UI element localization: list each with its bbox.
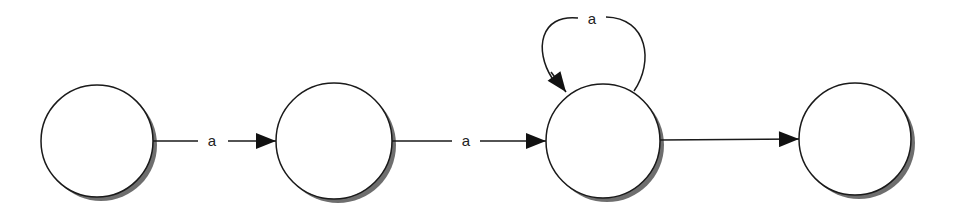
loop-arrow [551, 72, 566, 92]
state-circle [546, 84, 660, 198]
state-node-3[interactable] [546, 84, 664, 202]
edge-label: a [208, 132, 217, 149]
transition-s3-s4[interactable] [660, 139, 799, 140]
state-circle [799, 83, 911, 195]
state-node-1[interactable] [41, 85, 157, 201]
state-diagram: a a a [0, 0, 954, 218]
transition-s1-s2[interactable]: a [153, 132, 276, 149]
transition-s3-self-loop[interactable]: a [542, 10, 645, 92]
state-node-2[interactable] [276, 83, 396, 203]
edge-label: a [462, 132, 471, 149]
edge-label: a [588, 10, 597, 27]
transition-s2-s3[interactable]: a [392, 132, 546, 149]
state-circle [41, 85, 153, 197]
state-circle [276, 83, 392, 199]
state-node-4[interactable] [799, 83, 915, 199]
loop-arc-left [542, 18, 578, 78]
loop-arc-right [606, 17, 645, 91]
edge-arrow [660, 139, 799, 140]
